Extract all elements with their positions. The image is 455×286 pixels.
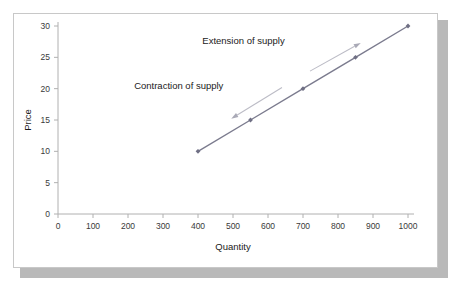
x-tick-label: 900 <box>366 221 380 231</box>
y-tick-label: 30 <box>41 21 51 31</box>
y-axis-title: Price <box>22 109 33 131</box>
y-tick-label: 25 <box>41 52 51 62</box>
x-tick-label: 500 <box>226 221 240 231</box>
y-tick-label: 20 <box>41 84 51 94</box>
x-tick-label: 200 <box>121 221 135 231</box>
contraction-of-supply-arrowhead <box>231 113 238 119</box>
y-tick-label: 5 <box>45 178 50 188</box>
x-axis-title: Quantity <box>215 241 251 252</box>
figure-root: 051015202530 010020030040050060070080090… <box>0 0 455 286</box>
supply-curve-chart: 051015202530 010020030040050060070080090… <box>14 14 439 269</box>
extension-of-supply-arrowhead <box>354 43 361 48</box>
axes <box>58 22 414 214</box>
contraction-of-supply-arrow-line <box>237 87 282 115</box>
y-tick-label: 0 <box>45 209 50 219</box>
contraction-of-supply-label: Contraction of supply <box>134 80 223 91</box>
x-tick-label: 0 <box>56 221 61 231</box>
chart-card: 051015202530 010020030040050060070080090… <box>13 13 438 268</box>
annotations: Extension of supplyContraction of supply <box>134 35 361 119</box>
y-tick-label: 15 <box>41 115 51 125</box>
extension-of-supply-label: Extension of supply <box>202 35 285 46</box>
x-tick-label: 800 <box>331 221 345 231</box>
y-axis-ticks: 051015202530 <box>41 21 58 219</box>
x-tick-label: 100 <box>86 221 100 231</box>
x-tick-label: 400 <box>191 221 205 231</box>
x-tick-label: 300 <box>156 221 170 231</box>
x-tick-label: 1000 <box>399 221 418 231</box>
x-tick-label: 700 <box>296 221 310 231</box>
x-axis-ticks: 01002003004005006007008009001000 <box>56 214 418 231</box>
y-tick-label: 10 <box>41 146 51 156</box>
x-tick-label: 600 <box>261 221 275 231</box>
extension-of-supply-arrow-line <box>310 46 355 71</box>
